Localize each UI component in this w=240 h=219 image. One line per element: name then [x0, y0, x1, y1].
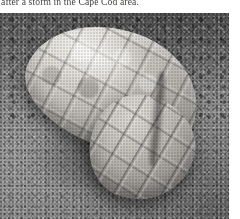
photo-caption-text: after a storm in the Cape Cod area. — [1, 0, 139, 7]
page-canvas: after a storm in the Cape Cod area. — [0, 0, 240, 219]
photograph — [0, 13, 229, 219]
caption-strip: after a storm in the Cape Cod area. — [0, 0, 240, 12]
